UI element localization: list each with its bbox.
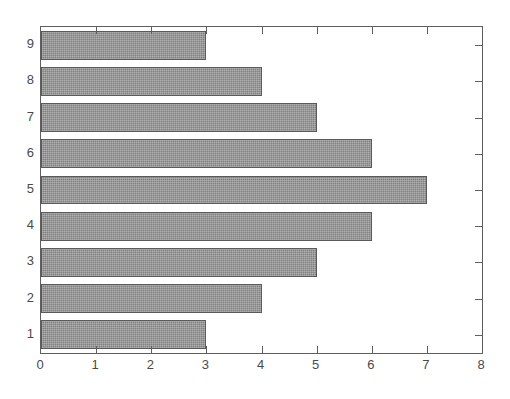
y-axis-label-2: 2 [14,290,34,306]
x-tick-top-7 [427,27,428,34]
y-tick-right-1 [475,335,482,336]
y-axis-label-6: 6 [14,145,34,161]
bar-category-3 [41,248,317,277]
x-tick-bottom-6 [372,346,373,353]
bar-category-2 [41,284,262,313]
bar-category-5 [41,176,427,205]
plot-frame [40,26,483,354]
y-tick-right-4 [475,226,482,227]
x-axis-label-7: 7 [411,357,441,373]
y-axis-label-9: 9 [14,36,34,52]
bar-category-8 [41,67,262,96]
y-tick-right-9 [475,45,482,46]
y-tick-right-6 [475,154,482,155]
x-tick-bottom-7 [427,346,428,353]
y-axis-label-1: 1 [14,326,34,342]
x-axis-label-5: 5 [301,357,331,373]
y-axis-label-4: 4 [14,217,34,233]
x-tick-bottom-2 [151,346,152,353]
bar-category-6 [41,139,372,168]
x-tick-top-5 [317,27,318,34]
x-tick-bottom-5 [317,346,318,353]
y-tick-right-7 [475,118,482,119]
bar-category-4 [41,212,372,241]
x-tick-bottom-1 [96,346,97,353]
y-tick-right-8 [475,81,482,82]
bar-category-7 [41,103,317,132]
x-axis-label-2: 2 [135,357,165,373]
y-tick-right-5 [475,190,482,191]
x-axis-label-1: 1 [80,357,110,373]
x-axis-label-4: 4 [246,357,276,373]
bar-chart: 012345678123456789 [0,0,510,399]
y-axis-label-5: 5 [14,181,34,197]
x-axis-label-3: 3 [190,357,220,373]
x-tick-top-1 [96,27,97,34]
x-axis-label-0: 0 [25,357,55,373]
x-tick-top-4 [262,27,263,34]
x-axis-label-8: 8 [466,357,496,373]
y-tick-right-2 [475,299,482,300]
bar-category-1 [41,320,206,349]
x-tick-bottom-4 [262,346,263,353]
x-tick-top-3 [206,27,207,34]
plot-area [41,27,482,353]
bar-category-9 [41,31,206,60]
x-tick-top-6 [372,27,373,34]
y-axis-label-7: 7 [14,109,34,125]
y-tick-right-3 [475,262,482,263]
y-axis-label-3: 3 [14,253,34,269]
x-tick-top-2 [151,27,152,34]
y-axis-label-8: 8 [14,72,34,88]
x-tick-bottom-3 [206,346,207,353]
x-axis-label-6: 6 [356,357,386,373]
